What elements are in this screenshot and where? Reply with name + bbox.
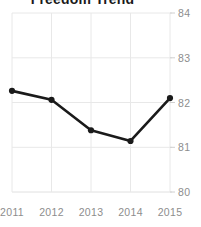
y-tick-label: 82 [178, 97, 190, 109]
y-tick-label: 80 [178, 186, 190, 198]
data-point [167, 95, 173, 101]
x-tick-label: 2011 [0, 206, 24, 218]
y-tick-label: 83 [178, 52, 190, 64]
x-tick-label: 2012 [39, 206, 64, 218]
data-point [48, 97, 54, 103]
y-axis-ticks [170, 13, 175, 192]
x-tick-label: 2015 [158, 206, 183, 218]
y-tick-label: 81 [178, 141, 190, 153]
y-tick-label: 84 [178, 7, 190, 19]
x-tick-label: 2014 [118, 206, 143, 218]
horizontal-gridlines [12, 13, 172, 192]
data-point [127, 138, 133, 144]
line-chart: Freedom Trend 8081828 [0, 0, 201, 227]
data-point [9, 88, 15, 94]
chart-plot-area [0, 0, 201, 227]
data-point [88, 127, 94, 133]
x-tick-label: 2013 [79, 206, 104, 218]
